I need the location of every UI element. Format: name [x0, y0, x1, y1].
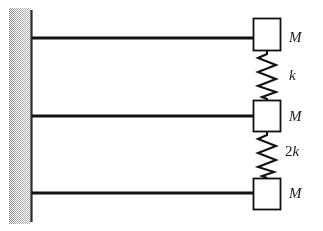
mass-label-bottom: M [289, 186, 302, 201]
mass-label-top: M [289, 30, 302, 45]
mass-block-bottom [254, 179, 281, 210]
spring-mass-diagram: M M M k 2k [0, 0, 323, 231]
mass-label-middle: M [289, 109, 302, 124]
spring-upper [258, 51, 276, 101]
spring-lower-stiffness: k [293, 143, 300, 159]
mass-block-middle [254, 101, 281, 132]
spring-upper-stiffness: k [289, 67, 296, 83]
mass-block-top [254, 19, 281, 51]
spring-label-lower: 2k [285, 144, 299, 159]
spring-label-upper: k [289, 68, 296, 83]
wall-hatching [9, 8, 31, 224]
spring-lower-coefficient: 2 [285, 143, 293, 159]
spring-lower [258, 131, 276, 178]
diagram-canvas [0, 0, 323, 231]
